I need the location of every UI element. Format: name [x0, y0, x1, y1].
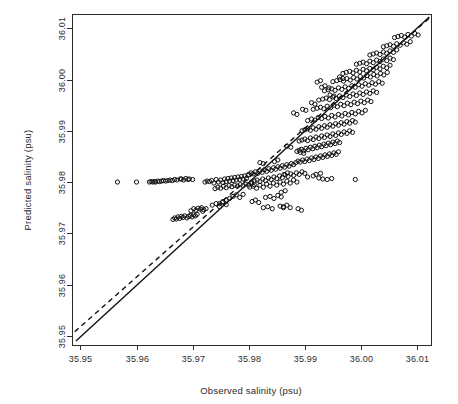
x-tick-label: 36.00 [350, 354, 374, 364]
x-axis-title: Observed salinity (psu) [200, 385, 302, 396]
y-tick-label: 35.96 [57, 274, 67, 298]
y-tick-label: 35.95 [57, 325, 67, 349]
x-tick-label: 35.95 [69, 354, 93, 364]
y-axis-title: Predicted salinity (psu) [22, 130, 33, 231]
y-tick-label: 35.99 [57, 120, 67, 144]
scatter-plot-svg: 35.9535.9635.9735.9835.9936.0036.01 35.9… [0, 0, 458, 404]
y-tick-label: 35.98 [57, 171, 67, 195]
x-tick-label: 35.99 [294, 354, 318, 364]
x-tick-label: 36.01 [406, 354, 430, 364]
x-tick-label: 35.96 [126, 354, 150, 364]
chart-figure: 35.9535.9635.9735.9835.9936.0036.01 35.9… [0, 0, 458, 404]
x-tick-label: 35.97 [182, 354, 206, 364]
x-tick-label: 35.98 [238, 354, 262, 364]
y-tick-label: 36.01 [57, 17, 67, 41]
y-tick-label: 36.00 [57, 69, 67, 93]
y-tick-label: 35.97 [57, 222, 67, 246]
plot-background [0, 0, 458, 404]
